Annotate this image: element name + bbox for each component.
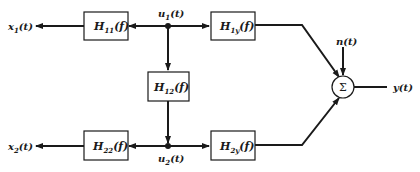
block-h1y: H1y(f) bbox=[211, 12, 255, 40]
wire-h2y-to-sum bbox=[255, 98, 339, 145]
sigma-symbol: Σ bbox=[339, 81, 347, 94]
block-h22: H22(f) bbox=[84, 131, 128, 160]
label-n: n(t) bbox=[336, 36, 358, 47]
label-u1: u1(t) bbox=[158, 8, 185, 22]
label-y: y(t) bbox=[392, 82, 413, 93]
junction-u1 bbox=[165, 23, 171, 29]
block-h2y: H2y(f) bbox=[211, 131, 255, 160]
block-h11: H11(f) bbox=[84, 12, 129, 40]
block-diagram: H11(f) H1y(f) H12(f) H22(f) H2y(f) Σ x1(… bbox=[0, 0, 420, 172]
label-x1: x1(t) bbox=[7, 21, 33, 35]
junction-u2 bbox=[165, 143, 171, 149]
wire-h1y-to-sum bbox=[255, 25, 339, 77]
summing-junction: Σ bbox=[332, 76, 354, 98]
block-h12: H12(f) bbox=[148, 72, 189, 101]
label-x2: x2(t) bbox=[7, 141, 33, 155]
label-u2: u2(t) bbox=[158, 153, 185, 167]
